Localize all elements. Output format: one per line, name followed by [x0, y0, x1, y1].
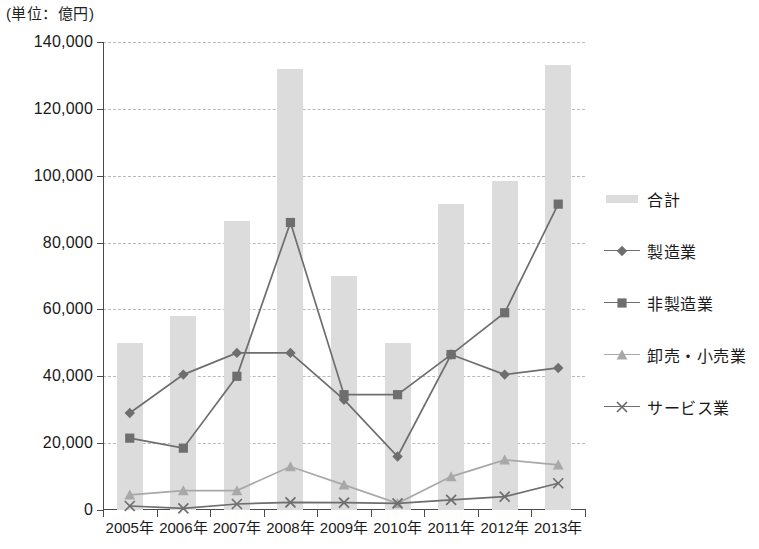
legend-label: 卸売・小売業 — [647, 343, 746, 367]
triangle-icon — [604, 346, 640, 364]
x-axis-tick-label: 2009年 — [320, 516, 368, 537]
x-axis-tick-label: 2012年 — [480, 516, 528, 537]
chart-page: (単位：億円) 020,00040,00060,00080,000100,000… — [0, 0, 759, 549]
x-axis-tick — [585, 509, 586, 517]
y-axis-tick-label: 20,000 — [43, 434, 93, 452]
legend-item[interactable]: 非製造業 — [604, 290, 756, 316]
line-series — [125, 200, 563, 453]
x-axis-tick — [371, 509, 372, 517]
x-axis-tick-label: 2006年 — [159, 516, 207, 537]
square-marker — [179, 444, 188, 453]
legend-label: 非製造業 — [647, 291, 713, 315]
square-marker — [125, 434, 134, 443]
legend: 合計製造業非製造業卸売・小売業サービス業 — [604, 186, 756, 446]
x-axis-tick — [478, 509, 479, 517]
x-axis-tick — [317, 509, 318, 517]
legend-label: 製造業 — [647, 239, 697, 263]
diamond-icon — [604, 242, 640, 260]
unit-label: (単位：億円) — [6, 2, 95, 23]
x-axis-tick — [157, 509, 158, 517]
cross-marker — [617, 402, 627, 412]
bar-swatch-icon — [604, 190, 640, 208]
legend-item[interactable]: サービス業 — [604, 394, 756, 420]
square-marker — [232, 372, 241, 381]
legend-item[interactable]: 合計 — [604, 186, 756, 212]
x-axis-tick-label: 2013年 — [534, 516, 582, 537]
x-axis-tick — [531, 509, 532, 517]
x-axis-tick-label: 2008年 — [266, 516, 314, 537]
y-axis-tick-label: 0 — [84, 501, 93, 519]
y-axis-tick-label: 40,000 — [43, 367, 93, 385]
y-axis-tick-label: 80,000 — [43, 234, 93, 252]
legend-item[interactable]: 卸売・小売業 — [604, 342, 756, 368]
y-axis-tick-label: 140,000 — [34, 33, 93, 51]
diamond-marker — [553, 363, 563, 373]
triangle-marker — [285, 461, 296, 471]
diamond-marker — [617, 246, 627, 256]
line-series — [124, 454, 563, 507]
square-marker — [339, 390, 348, 399]
x-axis-tick — [103, 509, 104, 517]
x-axis-tick-label: 2010年 — [373, 516, 421, 537]
line-series-layer — [103, 42, 585, 510]
square-marker — [500, 308, 509, 317]
square-marker — [393, 390, 402, 399]
x-axis-tick — [210, 509, 211, 517]
x-axis-tick-label: 2011年 — [427, 516, 474, 537]
y-axis-tick-label: 60,000 — [43, 300, 93, 318]
x-axis-tick — [264, 509, 265, 517]
y-axis-tick-label: 100,000 — [34, 167, 93, 185]
legend-label: 合計 — [647, 187, 680, 211]
plot-area: 020,00040,00060,00080,000100,000120,0001… — [103, 42, 585, 510]
square-marker — [554, 200, 563, 209]
diamond-marker — [499, 369, 509, 379]
square-marker — [286, 218, 295, 227]
triangle-marker — [617, 350, 628, 360]
x-axis-tick-label: 2005年 — [106, 516, 154, 537]
square-icon — [604, 294, 640, 312]
line-series — [125, 348, 564, 462]
diamond-marker — [232, 348, 242, 358]
square-marker — [447, 350, 456, 359]
legend-label: サービス業 — [647, 395, 730, 419]
series-line — [130, 204, 558, 448]
square-marker — [617, 298, 626, 307]
cross-icon — [604, 398, 640, 416]
legend-item[interactable]: 製造業 — [604, 238, 756, 264]
x-axis-tick-label: 2007年 — [213, 516, 261, 537]
y-axis-tick-label: 120,000 — [34, 100, 93, 118]
x-axis-tick — [424, 509, 425, 517]
